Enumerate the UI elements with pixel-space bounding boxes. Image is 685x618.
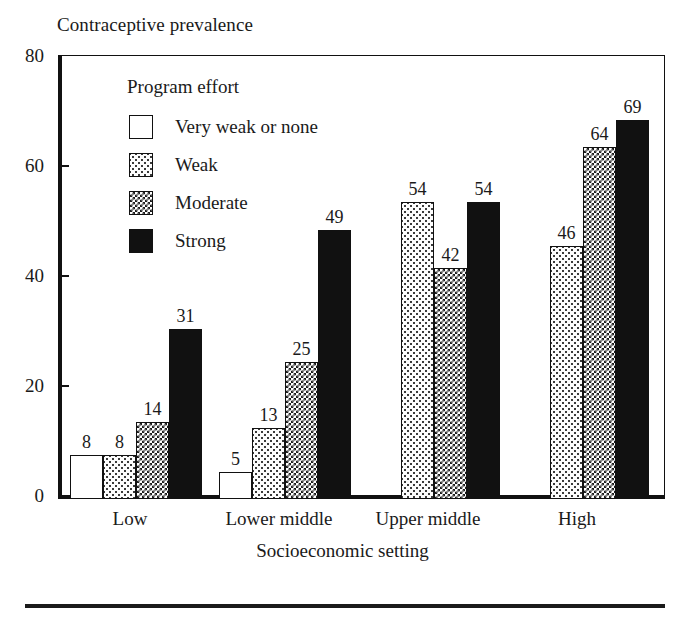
bar-label-high-weak: 46 — [550, 223, 583, 244]
legend-swatch-moderate-icon — [129, 191, 153, 215]
bar-low-moderate[interactable] — [136, 422, 169, 499]
legend-label-very-weak: Very weak or none — [175, 116, 318, 138]
bar-label-lower-middle-strong: 49 — [318, 207, 351, 228]
legend-swatch-strong-icon — [129, 229, 153, 253]
legend-label-moderate: Moderate — [175, 192, 248, 214]
legend-item-strong[interactable]: Strong — [113, 222, 318, 260]
bar-label-lower-middle-weak: 13 — [252, 405, 285, 426]
bar-label-low-strong: 31 — [169, 306, 202, 327]
x-category-label-lower-middle: Lower middle — [205, 508, 353, 530]
x-axis-title: Socioeconomic setting — [0, 540, 685, 562]
bar-label-high-moderate: 64 — [583, 124, 616, 145]
bar-lower-middle-moderate[interactable] — [285, 362, 318, 500]
x-category-label-low: Low — [56, 508, 204, 530]
bar-lower-middle-strong[interactable] — [318, 230, 351, 500]
bar-high-moderate[interactable] — [583, 147, 616, 499]
legend-label-strong: Strong — [175, 230, 226, 252]
bar-lower-middle-very-weak[interactable] — [219, 472, 252, 500]
y-tick-label-0: 0 — [0, 486, 44, 505]
y-tick-label-60: 60 — [0, 156, 44, 175]
legend-title: Program effort — [127, 76, 318, 98]
bar-label-lower-middle-moderate: 25 — [285, 339, 318, 360]
bar-low-very-weak[interactable] — [70, 455, 103, 499]
bar-label-high-strong: 69 — [616, 97, 649, 118]
bar-upper-middle-strong[interactable] — [467, 202, 500, 499]
bar-label-upper-middle-moderate: 42 — [434, 245, 467, 266]
x-category-label-upper-middle: Upper middle — [354, 508, 502, 530]
legend: Program effort Very weak or none Weak Mo… — [113, 76, 318, 260]
y-tick-label-20: 20 — [0, 376, 44, 395]
bar-label-upper-middle-weak: 54 — [401, 179, 434, 200]
y-tick-label-40: 40 — [0, 266, 44, 285]
bar-low-weak[interactable] — [103, 455, 136, 499]
chart-figure: Contraceptive prevalence 80 60 40 20 0 8… — [0, 0, 685, 618]
bar-low-strong[interactable] — [169, 329, 202, 500]
bar-upper-middle-moderate[interactable] — [434, 268, 467, 499]
bottom-divider-rule — [25, 604, 665, 608]
bar-high-strong[interactable] — [616, 120, 649, 500]
bar-upper-middle-weak[interactable] — [401, 202, 434, 499]
bar-label-low-very-weak: 8 — [70, 432, 103, 453]
bar-label-low-moderate: 14 — [136, 399, 169, 420]
legend-swatch-weak-icon — [129, 153, 153, 177]
bar-lower-middle-weak[interactable] — [252, 428, 285, 500]
y-tick-label-80: 80 — [0, 46, 44, 65]
legend-label-weak: Weak — [175, 154, 218, 176]
x-category-label-high: High — [503, 508, 651, 530]
legend-swatch-very-weak-icon — [129, 115, 153, 139]
bar-label-upper-middle-strong: 54 — [467, 179, 500, 200]
legend-item-very-weak-or-none[interactable]: Very weak or none — [113, 108, 318, 146]
chart-title: Contraceptive prevalence — [57, 14, 253, 36]
legend-item-moderate[interactable]: Moderate — [113, 184, 318, 222]
bar-high-weak[interactable] — [550, 246, 583, 499]
bar-label-lower-middle-very-weak: 5 — [219, 449, 252, 470]
bar-label-low-weak: 8 — [103, 432, 136, 453]
legend-item-weak[interactable]: Weak — [113, 146, 318, 184]
